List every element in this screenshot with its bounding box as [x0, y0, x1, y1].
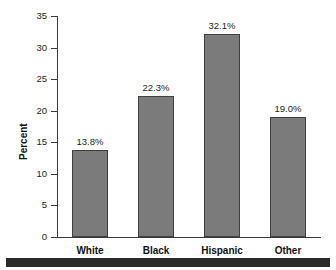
x-axis-category-label: Black	[118, 246, 194, 256]
bar-other	[270, 117, 306, 237]
y-axis-tick-label: 35	[7, 11, 47, 21]
y-axis-tick-label: 0	[7, 232, 47, 242]
y-axis-tick	[51, 205, 57, 206]
x-axis-category-label: Hispanic	[184, 246, 260, 256]
x-axis-category-label: Other	[250, 246, 326, 256]
y-axis-line	[57, 16, 58, 238]
bar-black	[138, 96, 174, 237]
bar-value-label: 19.0%	[256, 104, 320, 114]
footer-rule	[6, 258, 330, 267]
y-axis-tick-label: 5	[7, 200, 47, 210]
y-axis-tick	[51, 174, 57, 175]
y-axis-tick	[51, 111, 57, 112]
bar-white	[72, 150, 108, 237]
bar-value-label: 22.3%	[124, 83, 188, 93]
y-axis-title: Percent	[14, 107, 32, 177]
y-axis-tick-label: 25	[7, 74, 47, 84]
x-axis-line	[57, 237, 321, 238]
y-axis-tick	[51, 237, 57, 238]
bar-hispanic	[204, 34, 240, 237]
y-axis-tick	[51, 16, 57, 17]
plot-area: 05101520253035 Percent 13.8%White22.3%Bl…	[0, 0, 336, 270]
y-axis-tick	[51, 79, 57, 80]
y-axis-tick	[51, 142, 57, 143]
bar-value-label: 32.1%	[190, 21, 254, 31]
bar-value-label: 13.8%	[58, 137, 122, 147]
y-axis-tick-label: 30	[7, 43, 47, 53]
y-axis-tick	[51, 48, 57, 49]
x-axis-category-label: White	[52, 246, 128, 256]
chart-figure: 05101520253035 Percent 13.8%White22.3%Bl…	[0, 0, 336, 270]
